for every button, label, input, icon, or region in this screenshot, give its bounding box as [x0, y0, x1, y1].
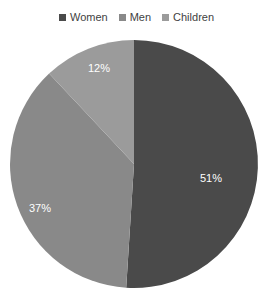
pie-chart-figure: Women Men Children 51%37%12% — [0, 0, 273, 303]
pie-svg: 51%37%12% — [0, 0, 273, 303]
pie-slice-group — [10, 40, 258, 288]
pie-slice-label-men: 37% — [29, 202, 51, 214]
pie-slice-women[interactable] — [126, 40, 258, 288]
pie-plot-area: 51%37%12% — [0, 0, 273, 303]
pie-slice-label-children: 12% — [88, 62, 110, 74]
pie-slice-label-women: 51% — [200, 172, 222, 184]
